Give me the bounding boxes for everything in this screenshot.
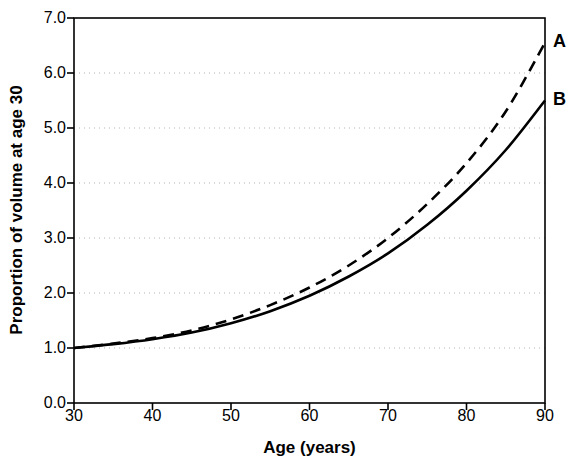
curve-a <box>74 43 545 348</box>
x-tick-label: 40 <box>133 408 173 424</box>
gridlines <box>74 73 545 348</box>
plot-area <box>0 0 578 473</box>
axis-frame <box>74 18 545 403</box>
x-tick-label: 60 <box>290 408 330 424</box>
series-label-a: A <box>553 32 566 50</box>
x-axis-tick-labels: 30405060708090 <box>0 408 578 432</box>
x-axis-title: Age (years) <box>74 438 545 458</box>
curve-b <box>74 101 545 349</box>
chart-figure: Proportion of volume at age 30 0.01.02.0… <box>0 0 578 473</box>
x-tick-label: 70 <box>368 408 408 424</box>
x-tick-label: 80 <box>447 408 487 424</box>
x-tick-label: 90 <box>525 408 565 424</box>
x-tick-label: 50 <box>211 408 251 424</box>
x-tick-label: 30 <box>54 408 94 424</box>
data-curves <box>74 43 545 348</box>
series-label-b: B <box>553 90 566 108</box>
axis-ticks <box>67 18 545 410</box>
